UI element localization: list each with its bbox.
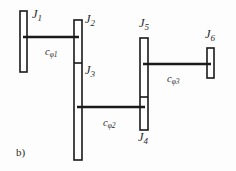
label-inertia-j3: J3 <box>85 64 95 79</box>
label-inertia-j4: J4 <box>138 131 148 146</box>
inertia-bar-j5-j4 <box>140 38 148 130</box>
label-stiffness-c3: cφ3 <box>167 74 180 86</box>
label-inertia-j1: J1 <box>32 8 42 23</box>
label-stiffness-c2: cφ2 <box>103 118 116 130</box>
label-stiffness-c1: cφ1 <box>45 47 58 59</box>
figure-caption: b) <box>16 146 25 158</box>
figure-container: J1 J2 J3 J4 J5 J6 cφ1 cφ2 cφ3 b) <box>0 0 236 171</box>
label-inertia-j2: J2 <box>85 13 95 28</box>
inertia-bar-j2-j3 <box>74 20 82 160</box>
schematic-drawing <box>0 0 236 171</box>
label-inertia-j6: J6 <box>205 28 215 43</box>
label-inertia-j5: J5 <box>139 17 149 32</box>
inertia-bar-j1 <box>20 11 27 72</box>
